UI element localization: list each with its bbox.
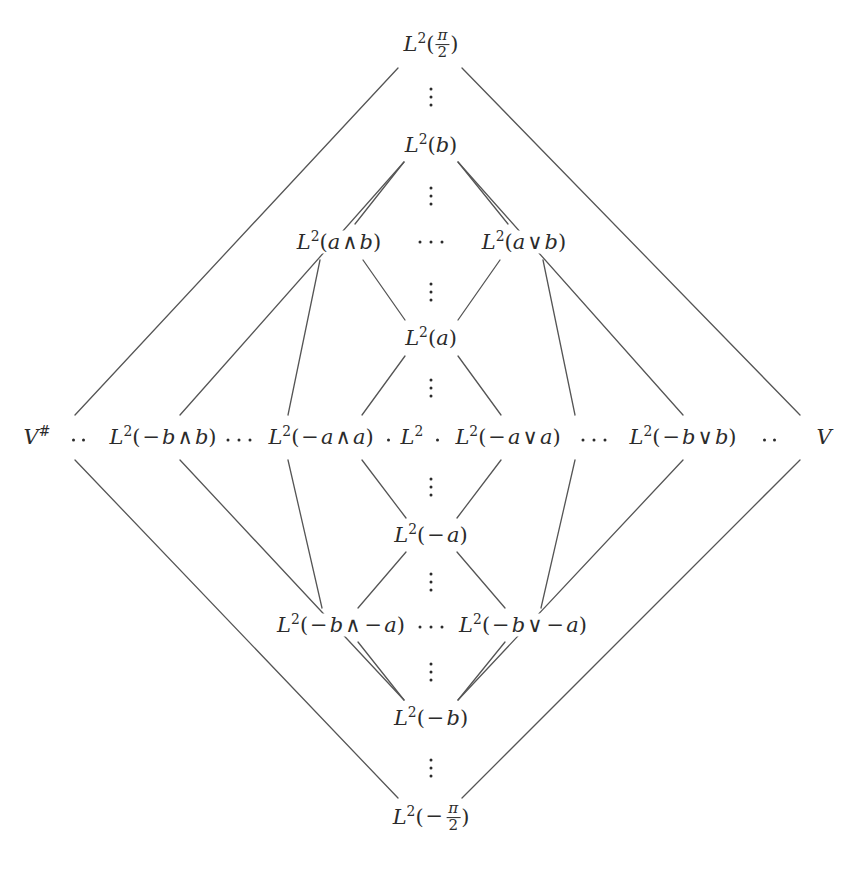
vdots-middle-nega	[427, 471, 436, 504]
node-v-sharp: V#	[20, 426, 55, 449]
node-bottom: L2(−π2)	[389, 801, 474, 835]
vdots-a-middle	[427, 372, 436, 405]
node-neg-b: L2(−b)	[390, 707, 472, 730]
edge-b-to-a-and-b	[355, 162, 404, 224]
edge-a-to-na-and-a	[362, 356, 405, 415]
edge-b-to-nb-and-b	[180, 162, 404, 415]
edge-a-or-b-to-a	[458, 260, 500, 320]
lattice-diagram: L2(π2) L2(b) L2(a∧b) L2(a∨b) L2(a) V# L2…	[0, 0, 861, 882]
hdots-naanda-center	[381, 437, 395, 444]
edge-a-or-b-to-na-or-a	[543, 260, 575, 415]
vdots-top-b	[427, 81, 436, 114]
node-a-or-b: L2(a∨b)	[478, 231, 571, 254]
vdots-b-ab	[427, 180, 436, 213]
edge-a-and-b-to-a	[363, 260, 405, 320]
edge-b-to-a-or-b	[458, 162, 508, 224]
edge-neg-a-to-nb-and-na	[358, 552, 406, 608]
node-a: L2(a)	[401, 327, 461, 350]
node-center: L2	[397, 426, 428, 449]
edge-na-and-a-to-nb-and-na	[288, 460, 322, 608]
vdots-nega-negab	[427, 566, 436, 599]
node-na-and-a: L2(−a∧a)	[264, 426, 377, 449]
edge-a-and-b-to-na-and-a	[288, 260, 320, 415]
vdots-negb-bottom	[427, 752, 436, 785]
node-a-and-b: L2(a∧b)	[293, 231, 386, 254]
node-nb-and-na: L2(−b∧−a)	[273, 614, 409, 637]
hdots-center-naora	[430, 437, 444, 444]
edge-na-or-a-to-neg-a	[457, 460, 501, 518]
hdots-nborb-v	[757, 437, 781, 444]
edge-nb-and-b-to-neg-b	[180, 460, 404, 700]
node-nb-or-na: L2(−b∨−a)	[455, 614, 591, 637]
edge-na-or-a-to-nb-or-na	[541, 460, 575, 608]
node-nb-and-b: L2(−b∧b)	[105, 426, 220, 449]
node-top: L2(π2)	[399, 28, 462, 62]
edge-nb-and-na-to-neg-b	[358, 642, 404, 700]
hdots-row-ab	[413, 239, 450, 246]
edge-nb-or-b-to-neg-b	[458, 460, 683, 700]
vdots-ab-a	[427, 276, 436, 309]
hdots-row-negab	[413, 624, 450, 631]
hdots-naora-nborb	[576, 437, 613, 444]
edge-b-to-nb-or-b	[458, 162, 683, 415]
hdots-nbandb-naanda	[221, 437, 258, 444]
edge-a-to-na-or-a	[458, 356, 501, 415]
vdots-negab-negb	[427, 656, 436, 689]
node-v: V	[812, 426, 835, 449]
node-b: L2(b)	[401, 134, 462, 157]
hdots-vsharp-nbandb	[66, 437, 90, 444]
edge-nb-or-na-to-neg-b	[458, 642, 505, 700]
edge-neg-a-to-nb-or-na	[457, 552, 505, 608]
node-nb-or-b: L2(−b∨b)	[625, 426, 740, 449]
node-na-or-a: L2(−a∨a)	[451, 426, 564, 449]
node-neg-a: L2(−a)	[390, 524, 471, 547]
edge-na-and-a-to-neg-a	[362, 460, 406, 518]
